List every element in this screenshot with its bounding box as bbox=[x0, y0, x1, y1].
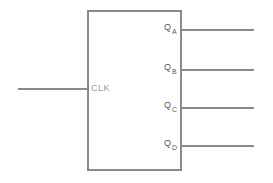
output-label-qd: QD bbox=[164, 138, 177, 149]
output-wire-qb bbox=[182, 69, 254, 71]
output-wire-qa bbox=[182, 29, 254, 31]
output-wire-qd bbox=[182, 145, 254, 147]
output-label-qb: QB bbox=[164, 62, 177, 73]
clk-label: CLK bbox=[91, 83, 110, 93]
output-label-qc: QC bbox=[164, 100, 177, 111]
output-label-qa: QA bbox=[164, 22, 177, 33]
clk-input-wire bbox=[18, 88, 88, 90]
output-wire-qc bbox=[182, 107, 254, 109]
